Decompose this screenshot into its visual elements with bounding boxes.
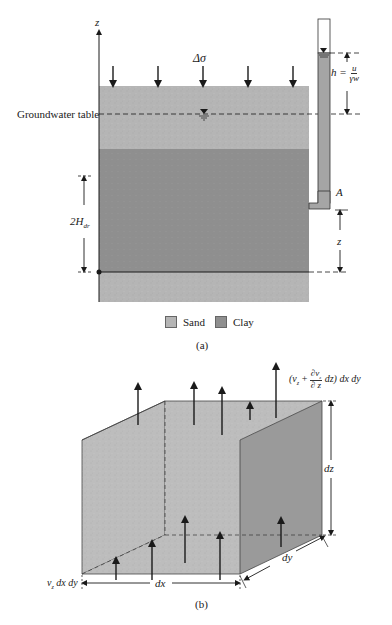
sand-swatch (165, 316, 177, 328)
origin-point (97, 270, 102, 275)
z-axis-label: z (95, 17, 99, 28)
legend: Sand Clay (165, 316, 254, 328)
head-fraction: u γw (349, 64, 359, 83)
outflow-open: (v (289, 373, 297, 384)
outflow-den: ∂ z (311, 381, 321, 390)
figure-a-diagram (0, 0, 392, 625)
caption-b: (b) (195, 598, 208, 610)
head-formula: h = u γw (331, 64, 359, 83)
caption-a: (a) (196, 339, 208, 351)
thickness-subscript: dr (83, 222, 89, 230)
dx-label: dx (155, 578, 165, 589)
soil-element-cube (82, 401, 322, 574)
outflow-num: ∂v (311, 368, 319, 378)
dz-label: dz (324, 463, 334, 474)
outflow-fraction: ∂vz ∂ z (310, 369, 322, 390)
head-label: h = (331, 66, 347, 78)
groundwater-table-label: Groundwater table (17, 109, 99, 120)
outflow-formula: (vz + ∂vz ∂ z dz) dx dy (289, 369, 361, 390)
outflow-plus: + (302, 373, 308, 384)
piezometer (309, 19, 330, 209)
head-denominator: γw (349, 74, 359, 83)
thickness-label: 2Hdr (70, 216, 90, 230)
inflow-sub: z (51, 584, 53, 590)
outflow-sub: z (297, 380, 299, 386)
clay-swatch (215, 316, 227, 328)
z-height-label: z (337, 236, 341, 247)
load-label: Δσ (193, 52, 206, 64)
dy-label: dy (282, 552, 292, 563)
legend-sand-label: Sand (183, 316, 205, 328)
soil-column (99, 86, 309, 302)
outflow-tail: dz) dx dy (325, 373, 361, 384)
load-arrows (113, 66, 293, 84)
point-a-label: A (336, 187, 343, 198)
thickness-main: 2H (70, 215, 83, 227)
inflow-tail: dx dy (56, 577, 77, 588)
legend-clay-label: Clay (233, 316, 254, 328)
inflow-formula: vz dx dy (47, 578, 78, 590)
